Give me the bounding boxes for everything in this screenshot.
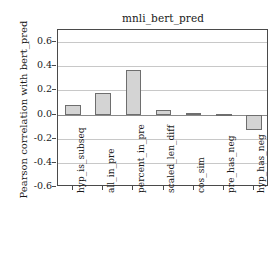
y-tick-label: 0.4 <box>26 60 52 70</box>
y-axis-tick-labels: 0.60.40.20.0-0.2-0.4-0.6 <box>22 29 52 186</box>
x-tick-label-hyp-has-neg: hyp_has_neg <box>256 134 266 193</box>
x-tick-label-pre-has-neg: pre_has_neg <box>226 135 236 193</box>
x-tick-label-hyp-is-subseq: hyp_is_subseq <box>76 127 86 193</box>
bar-percent-in-pre <box>126 70 142 115</box>
y-tick-label: 0.6 <box>26 36 52 46</box>
y-tick-label: -0.2 <box>26 133 52 143</box>
y-tick-mark <box>52 89 56 90</box>
x-tick-mark <box>163 186 164 190</box>
bar-chart-figure: mnli_bert_pred Pearson correlation with … <box>0 0 279 272</box>
bar-all-in-pre <box>95 93 111 114</box>
y-tick-mark <box>52 186 56 187</box>
bar-hyp-has-neg <box>246 115 262 130</box>
x-tick-mark <box>102 186 103 190</box>
x-tick-label-cos-sim: cos_sim <box>196 157 206 193</box>
bar-hyp-is-subseq <box>65 105 81 114</box>
bar-scaled-len-diff <box>156 110 172 115</box>
x-tick-mark <box>193 186 194 190</box>
x-tick-label-all-in-pre: all_in_pre <box>106 148 116 193</box>
y-tick-label: 0.2 <box>26 84 52 94</box>
chart-title: mnli_bert_pred <box>57 12 269 24</box>
y-tick-mark <box>52 114 56 115</box>
x-tick-label-percent-in-pre: percent_in_pre <box>136 124 146 193</box>
y-tick-label: -0.4 <box>26 157 52 167</box>
x-tick-label-scaled-len-diff: scaled_len_diff <box>166 125 176 193</box>
y-tick-mark <box>52 138 56 139</box>
y-tick-label: -0.6 <box>26 181 52 191</box>
x-tick-mark <box>253 186 254 190</box>
y-tick-mark <box>52 41 56 42</box>
y-tick-label: 0.0 <box>26 109 52 119</box>
x-tick-mark <box>132 186 133 190</box>
y-tick-mark <box>52 65 56 66</box>
x-tick-mark <box>72 186 73 190</box>
bar-pre-has-neg <box>216 114 232 116</box>
bar-cos-sim <box>186 113 202 115</box>
x-tick-mark <box>223 186 224 190</box>
plot-area <box>57 29 268 186</box>
y-tick-mark <box>52 162 56 163</box>
